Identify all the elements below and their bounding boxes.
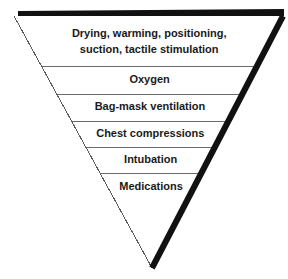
pyramid-top-bar (18, 9, 284, 16)
diagram-canvas: Drying, warming, positioning, suction, t… (0, 0, 288, 279)
pyramid-row-label-4: Chest compressions (88, 126, 213, 142)
pyramid-row-label-6: Medications (116, 179, 186, 195)
pyramid-row-label-1: Drying, warming, positioning, suction, t… (43, 26, 255, 57)
pyramid-row-label-5: Intubation (102, 152, 199, 168)
pyramid-row-label-2: Oxygen (59, 72, 241, 88)
pyramid-row-label-3: Bag-mask ventilation (74, 99, 227, 115)
